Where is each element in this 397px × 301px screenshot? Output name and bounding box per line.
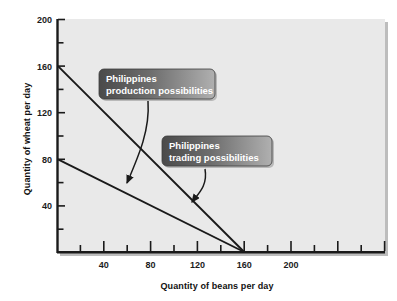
x-tick-label-80: 80 — [146, 260, 156, 270]
y-tick-label-160: 160 — [37, 62, 52, 72]
chart-figure: 200 160 120 80 40 40 80 120 160 200 Quan… — [0, 0, 397, 301]
ppf-trading-chart: 200 160 120 80 40 40 80 120 160 200 Quan… — [0, 0, 397, 301]
y-tick-label-200: 200 — [37, 15, 52, 25]
x-axis-title: Quantity of beans per day — [160, 281, 273, 291]
y-axis-title: Quantity of wheat per day — [22, 83, 32, 196]
y-tick-label-120: 120 — [37, 108, 52, 118]
trading-callout-line1: Philippines — [169, 140, 220, 151]
production-callout: Philippines production possibilities — [99, 69, 217, 101]
x-tick-label-200: 200 — [283, 260, 298, 270]
trading-callout: Philippines trading possibilities — [162, 136, 274, 168]
y-tick-label-80: 80 — [42, 155, 52, 165]
x-tick-label-160: 160 — [237, 260, 252, 270]
production-callout-line2: production possibilities — [106, 85, 213, 96]
x-tick-label-40: 40 — [99, 260, 109, 270]
x-tick-label-120: 120 — [190, 260, 205, 270]
trading-callout-line2: trading possibilities — [169, 152, 259, 163]
production-callout-line1: Philippines — [106, 73, 157, 84]
y-tick-label-40: 40 — [42, 201, 52, 211]
